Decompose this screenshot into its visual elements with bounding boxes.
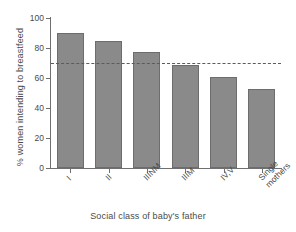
- x-tick-1: [109, 169, 110, 173]
- bar-5: [248, 89, 275, 169]
- y-tick-label-60: 60: [0, 74, 52, 83]
- bar-4: [210, 77, 237, 169]
- plot-area: [51, 18, 281, 168]
- x-axis-title: Social class of baby's father: [0, 211, 296, 221]
- y-tick-label-20: 20: [0, 134, 52, 143]
- y-tick-label-80: 80: [0, 44, 52, 53]
- y-tick-label-100: 100: [0, 14, 52, 23]
- bar-2: [133, 52, 160, 168]
- x-tick-0: [70, 169, 71, 173]
- y-tick-label-40: 40: [0, 104, 52, 113]
- bar-3: [172, 65, 199, 168]
- bar-0: [57, 33, 84, 168]
- y-axis-title: % women intending to breastfeed: [15, 17, 25, 177]
- bar-chart-figure: % women intending to breastfeed 02040608…: [0, 0, 296, 232]
- x-axis-spine: [50, 168, 282, 169]
- bar-1: [95, 41, 122, 169]
- y-tick-label-0: 0: [0, 164, 52, 173]
- x-category-label-1: II: [104, 173, 114, 183]
- x-category-label-0: I: [65, 174, 73, 182]
- reference-line-70: [51, 63, 281, 64]
